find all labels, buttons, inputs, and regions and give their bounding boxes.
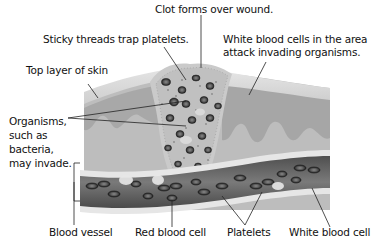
label-red-blood-cell: Red blood cell xyxy=(135,226,206,239)
label-white-blood-cell: White blood cell xyxy=(289,226,370,239)
label-clot-forms: Clot forms over wound. xyxy=(155,3,273,16)
label-platelets: Platelets xyxy=(227,226,270,239)
label-top-layer-of-skin: Top layer of skin xyxy=(26,64,108,77)
label-white-cells-area-2: attack invading organisms. xyxy=(223,46,360,59)
label-sticky-threads: Sticky threads trap platelets. xyxy=(43,33,189,46)
label-organisms: Organisms, such as bacteria, may invade. xyxy=(9,114,72,170)
label-white-cells-area-1: White blood cells in the area xyxy=(223,33,367,46)
label-blood-vessel: Blood vessel xyxy=(49,226,113,239)
right-edge xyxy=(330,80,378,220)
